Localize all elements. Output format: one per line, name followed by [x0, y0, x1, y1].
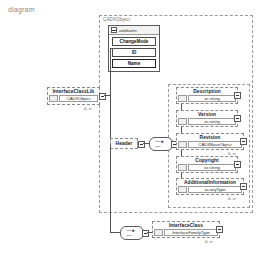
type-icon [178, 95, 187, 102]
compositor-glyph: —●— [127, 228, 138, 238]
connector [110, 232, 120, 233]
collapse-icon[interactable] [111, 27, 117, 33]
type-icon [154, 229, 163, 236]
type-icon [49, 95, 58, 102]
element-type-name: xs:string [188, 164, 236, 171]
attributes-header[interactable]: attributes [109, 26, 159, 35]
connector [110, 48, 111, 144]
type-icon [178, 186, 187, 193]
xsd-diagram-canvas: diagram CADXObject InterfaceClassLib CAD… [0, 0, 259, 253]
element-type-row: xs:string [178, 164, 236, 171]
element-type-name: CADXBaseObject [188, 141, 242, 148]
expand-icon-version[interactable] [234, 115, 241, 122]
element-type-row: xs:string [178, 95, 236, 102]
element-name: Copyright [177, 157, 237, 164]
element-type-row: xs:anyType [178, 186, 242, 193]
element-version[interactable]: Version xs:string [176, 110, 238, 127]
element-type-row: CADXBaseObject [178, 141, 242, 148]
expand-icon-revision[interactable] [240, 138, 247, 145]
cardinality-label: 0..∞ [228, 196, 236, 201]
group-cadxobject-title: CADXObject [103, 17, 130, 22]
compositor-glyph: —●— [156, 139, 167, 149]
expand-icon-additionalinformation[interactable] [240, 183, 247, 190]
cardinality-label: 0..∞ [84, 106, 92, 111]
element-type-row: InterfaceFamilyType [154, 229, 218, 236]
element-name: Header [111, 139, 137, 149]
type-icon [178, 164, 187, 171]
expand-icon-description[interactable] [234, 92, 241, 99]
element-type-name: xs:string [188, 95, 236, 102]
element-type-name: xs:anyType [188, 186, 242, 193]
type-icon [178, 141, 187, 148]
element-additionalinformation[interactable]: AdditionalInformation xs:anyType [176, 178, 244, 195]
element-header[interactable]: Header [110, 138, 138, 149]
element-name: InterfaceClass [153, 222, 219, 229]
element-name: Version [177, 111, 237, 118]
attributes-label: attributes [119, 28, 137, 33]
element-name: InterfaceClassLib [48, 88, 99, 95]
element-name: AdditionalInformation [177, 179, 243, 186]
expand-icon-interfaceclass[interactable] [216, 226, 223, 233]
element-interfaceclasslib[interactable]: InterfaceClassLib CADXObject [47, 87, 100, 105]
page-title: diagram [8, 6, 35, 13]
element-revision[interactable]: Revision CADXBaseObject [176, 133, 244, 150]
type-icon [178, 118, 187, 125]
sequence-compositor-icon-bottom[interactable]: —●— [120, 226, 144, 240]
attribute-row[interactable]: ID [112, 48, 156, 57]
element-type-name: CADXObject [59, 95, 98, 102]
element-type-name: InterfaceFamilyType [164, 229, 218, 236]
connector [110, 144, 111, 232]
element-type-name: xs:string [188, 118, 236, 125]
element-interfaceclass[interactable]: InterfaceClass InterfaceFamilyType [152, 221, 220, 238]
element-name: Description [177, 88, 237, 95]
attribute-row[interactable]: Name [112, 59, 156, 68]
element-type-row: CADXObject [49, 95, 98, 102]
element-name: Revision [177, 134, 243, 141]
expand-icon-copyright[interactable] [234, 161, 241, 168]
sequence-compositor-icon[interactable]: —●— [149, 137, 173, 151]
element-copyright[interactable]: Copyright xs:string [176, 156, 238, 173]
element-type-row: xs:string [178, 118, 236, 125]
cardinality-label: 0..∞ [205, 239, 213, 244]
element-description[interactable]: Description xs:string [176, 87, 238, 104]
attribute-row[interactable]: ChangeMode [112, 37, 156, 46]
connector [110, 48, 120, 49]
